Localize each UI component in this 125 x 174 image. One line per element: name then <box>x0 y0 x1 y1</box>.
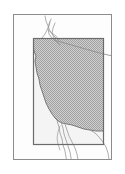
map-canvas <box>0 0 125 174</box>
map-figure <box>0 0 125 174</box>
